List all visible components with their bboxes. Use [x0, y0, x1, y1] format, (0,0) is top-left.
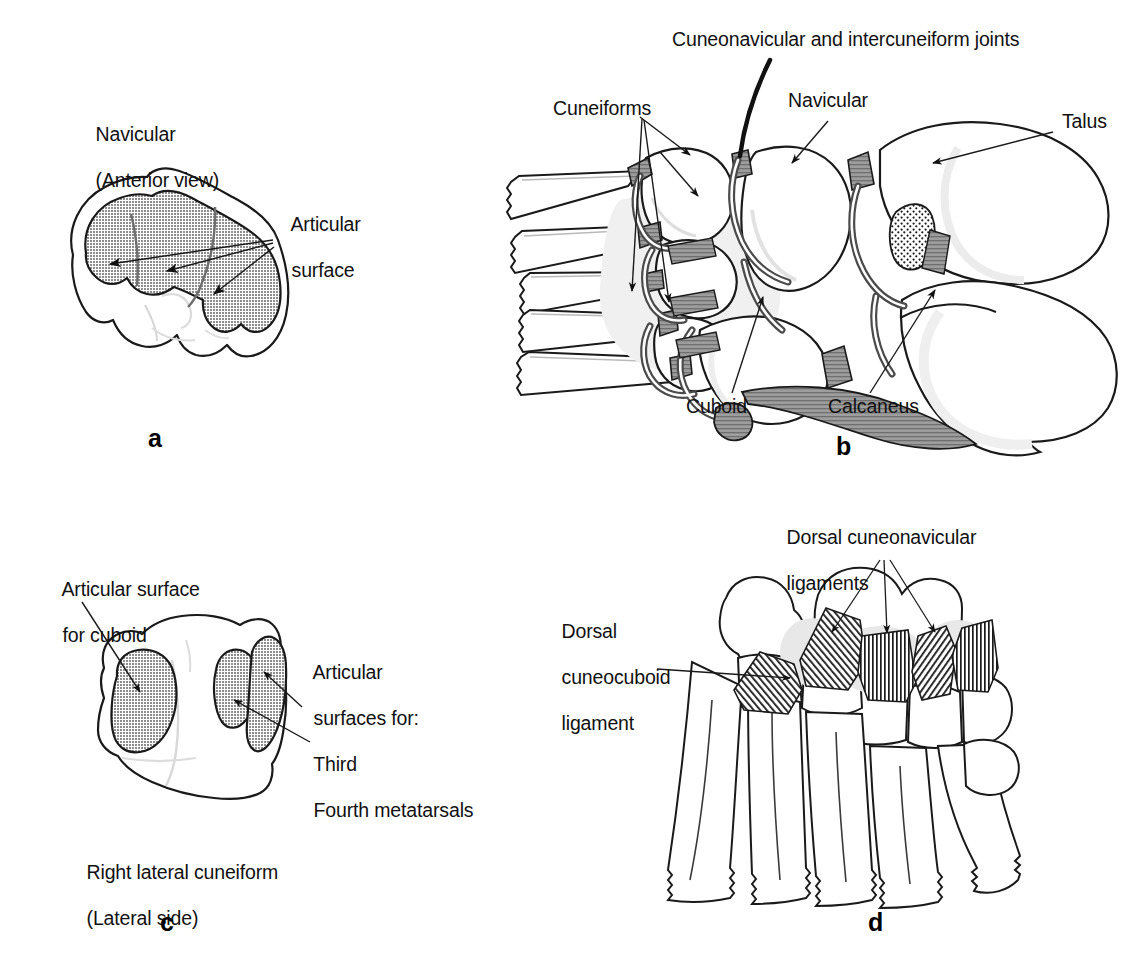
panel-a-articular-line1: Articular: [290, 213, 360, 235]
panel-letter-c: c: [160, 908, 174, 937]
panel-c-art-mt-line4: Fourth metatarsals: [314, 799, 474, 821]
panel-c-title: Right lateral cuneiform (Lateral side): [76, 838, 278, 930]
panel-b-calcaneus-label: Calcaneus: [828, 395, 919, 418]
panel-b-joints-label: Cuneonavicular and intercuneiform joints: [672, 28, 1019, 51]
panel-c-art-cuboid-line1: Articular surface: [61, 578, 199, 600]
panel-d-illustration: [657, 560, 1020, 908]
panel-c-art-mt-line1: Articular: [312, 661, 382, 683]
panel-b-cuboid-label: Cuboid: [686, 395, 747, 418]
panel-a-articular-line2: surface: [292, 259, 355, 281]
panel-c-art-cuboid-line2: for cuboid: [63, 624, 147, 646]
panel-b-navicular-label: Navicular: [788, 89, 868, 112]
panel-b-cuneiforms-label: Cuneiforms: [553, 97, 651, 120]
panel-d-cuneonav-line1: Dorsal cuneonavicular: [787, 526, 977, 548]
panel-c-art-mt-line3: Third: [313, 753, 357, 775]
cartilage-calcaneocuboid: [822, 346, 852, 388]
panel-c-title-line1: Right lateral cuneiform: [87, 861, 279, 883]
panel-d-cuneonavicular-label: Dorsal cuneonavicular ligaments: [776, 503, 976, 595]
panel-a-title: Navicular (Anterior view): [85, 100, 219, 192]
d-metatarsal-4: [870, 746, 942, 908]
panel-c-articular-cuboid-label: Articular surface for cuboid: [52, 555, 200, 647]
panel-d-cuneonav-line2: ligaments: [787, 572, 869, 594]
panel-letter-a: a: [148, 424, 162, 453]
panel-b-talus-label: Talus: [1062, 110, 1107, 133]
panel-d-cuneocub-line2: cuneocuboid: [562, 666, 671, 688]
panel-a-articular-surface-label: Articular surface: [281, 190, 361, 282]
panel-c-art-mt-line2: surfaces for:: [314, 707, 419, 729]
panel-letter-d: d: [868, 908, 883, 937]
panel-d-cuneocub-line1: Dorsal: [562, 620, 617, 642]
figure-root: Navicular (Anterior view) Articular surf…: [0, 0, 1147, 958]
d-lateral-block: [964, 740, 1019, 795]
panel-a-title-line1: Navicular: [96, 123, 176, 145]
panel-d-cuneocuboid-label: Dorsal cuneocuboid ligament: [551, 597, 671, 735]
panel-letter-b: b: [836, 432, 851, 461]
panel-b-leader-joints: [740, 60, 770, 156]
navicular-bone-b: [741, 147, 851, 291]
panel-c-articular-metatarsals-label: Articular surfaces for: Third Fourth met…: [303, 638, 473, 822]
dorsal-cuneonavicular-ligament-2: [858, 630, 916, 702]
panel-d-cuneocub-line3: ligament: [562, 712, 635, 734]
panel-c-title-line2: (Lateral side): [87, 907, 199, 929]
panel-a-title-line2: (Anterior view): [96, 169, 219, 191]
panel-a-illustration: [71, 168, 288, 356]
interosseous-ligaments: [668, 238, 720, 358]
dorsal-cuneonavicular-ligament-3: [912, 626, 956, 700]
